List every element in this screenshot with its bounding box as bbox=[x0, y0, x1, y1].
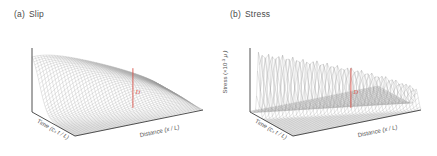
panel-b-z-axis-label: Stress (×10-3 μ ) bbox=[221, 50, 229, 93]
panel-b-y-axis-label: Distance (x / L) bbox=[357, 124, 398, 138]
panel-b-plot: D Time (cₛ t / L) Distance (x / L) Stres… bbox=[218, 0, 436, 156]
panel-a-y-axis-label: Distance (x / L) bbox=[139, 124, 180, 138]
panel-b-marker-label: D bbox=[352, 88, 358, 95]
panel-a-svg: D Time (cₛ t / L) Distance (x / L) bbox=[0, 0, 218, 156]
panel-a-plot: D Time (cₛ t / L) Distance (x / L) bbox=[0, 0, 218, 156]
panel-slip: (a)Slip D bbox=[0, 0, 218, 156]
panel-a-marker-label: D bbox=[134, 88, 140, 95]
figure-container: (a)Slip D bbox=[0, 0, 437, 156]
panel-b-svg: D Time (cₛ t / L) Distance (x / L) Stres… bbox=[218, 0, 436, 156]
panel-stress: (b)Stress D Time (cₛ t / L) Distan bbox=[218, 0, 436, 156]
